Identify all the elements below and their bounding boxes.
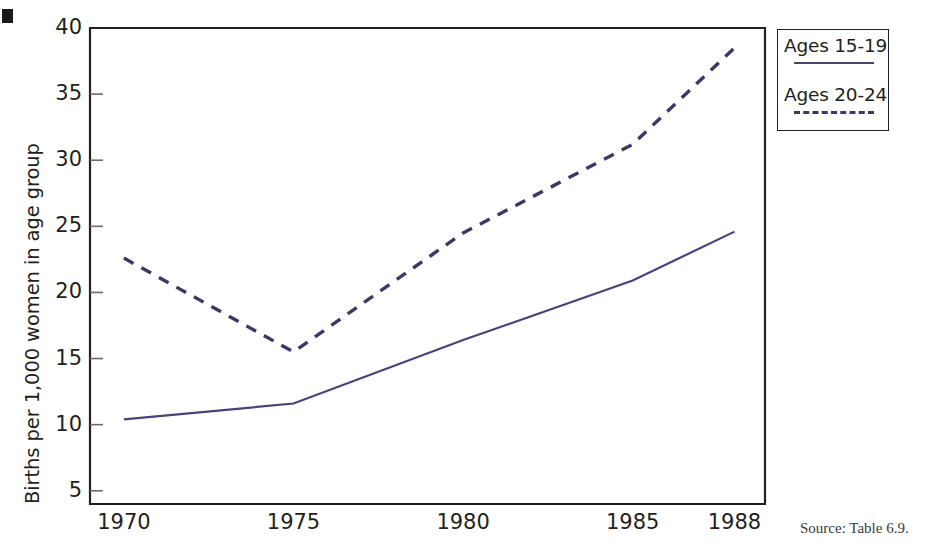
chart-legend: Ages 15-19 Ages 20-24 (777, 29, 889, 131)
figure-container: Births per 1,000 women in age group 5101… (0, 0, 937, 556)
legend-entry-ages-20-24: Ages 20-24 (778, 83, 890, 114)
series-line-ages-15-19 (124, 232, 735, 420)
legend-label-ages-15-19: Ages 15-19 (778, 34, 890, 57)
legend-swatch-dashed-line (794, 111, 874, 114)
series-line-ages-20-24 (124, 48, 735, 352)
legend-label-ages-20-24: Ages 20-24 (778, 83, 890, 106)
legend-swatch-solid-line (794, 62, 874, 64)
legend-entry-ages-15-19: Ages 15-19 (778, 34, 890, 64)
source-note: Source: Table 6.9. (800, 519, 909, 537)
